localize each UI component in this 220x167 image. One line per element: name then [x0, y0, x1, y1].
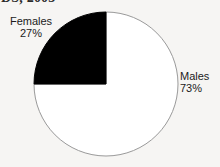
pie-label-males-percent: 73% — [180, 82, 220, 94]
pie-label-males-name: Males — [180, 70, 209, 82]
pie-chart-figure: DS, 2005 Females 27% Males 73% — [0, 0, 220, 167]
pie-label-females-percent: 27% — [2, 27, 60, 39]
pie-label-males: Males 73% — [180, 70, 220, 94]
pie-label-females-name: Females — [10, 15, 52, 27]
pie-label-females: Females 27% — [2, 15, 60, 39]
